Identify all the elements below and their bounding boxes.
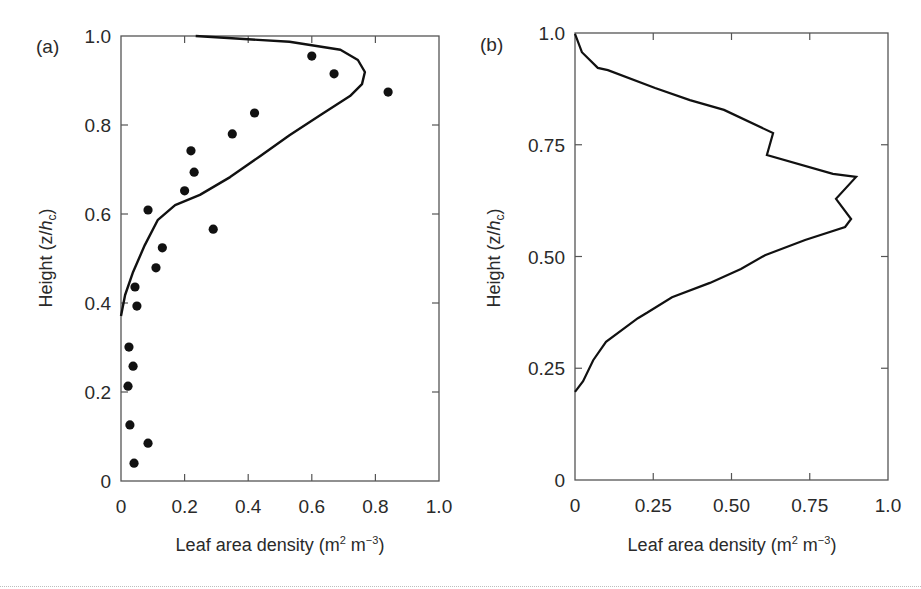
y-tick-label: 0.25 (528, 358, 565, 379)
panel-b-label: (b) (480, 34, 503, 55)
x-title-mid: m (346, 535, 366, 555)
y-tick-label: 0.8 (85, 115, 111, 136)
x-tick-label: 0.75 (791, 495, 828, 516)
panel-a-y-axis-title: Height (z/hc) (36, 208, 59, 307)
x-tick-label: 0.4 (235, 496, 262, 517)
data-point (128, 362, 137, 371)
panel-b-x-tick-labels: 00.250.500.751.0 (570, 495, 902, 516)
x-title-sup2: −3 (818, 534, 831, 546)
y-tick-label: 1.0 (85, 26, 111, 47)
data-point (228, 129, 237, 138)
panel-b-y-axis-title: Height (z/hc) (484, 208, 507, 307)
panel-a-model-line (121, 36, 365, 316)
data-point (151, 263, 160, 272)
y-title-text: Height (z/ (36, 230, 56, 307)
x-title-text: Leaf area density (m (628, 535, 792, 555)
y-tick-label: 0.4 (85, 293, 112, 314)
y-tick-label: 0.50 (528, 247, 565, 268)
x-tick-label: 0 (570, 495, 581, 516)
data-point (250, 108, 259, 117)
x-tick-label: 0.8 (362, 496, 388, 517)
panel-b-y-tick-labels: 00.250.500.751.0 (528, 23, 565, 491)
data-point (329, 69, 338, 78)
data-point (129, 459, 138, 468)
data-point (180, 186, 189, 195)
page-divider (0, 586, 921, 587)
y-title-h: h (484, 220, 504, 230)
y-title-text: Height (z/ (484, 230, 504, 307)
data-point (307, 51, 316, 60)
y-tick-label: 0 (554, 470, 565, 491)
y-title-close: ) (36, 208, 56, 214)
x-title-text: Leaf area density (m (176, 535, 340, 555)
y-title-close: ) (484, 208, 504, 214)
panel-a-chart: (a) 00.20.40.60.81.0 00.20.40.60.81.0 He… (36, 26, 452, 555)
y-tick-label: 0.6 (85, 204, 111, 225)
figure: (a) 00.20.40.60.81.0 00.20.40.60.81.0 He… (0, 0, 921, 589)
x-tick-label: 0 (116, 496, 127, 517)
panel-a-plot-frame (121, 36, 439, 481)
x-tick-label: 0.6 (299, 496, 325, 517)
panel-b-plot-frame (575, 33, 888, 480)
data-point (132, 302, 141, 311)
y-tick-label: 0 (100, 471, 111, 492)
data-point (124, 342, 133, 351)
y-tick-label: 0.75 (528, 135, 565, 156)
panel-b-x-axis-title: Leaf area density (m2 m−3) (628, 534, 837, 555)
panel-a-x-tick-labels: 00.20.40.60.81.0 (116, 496, 453, 517)
data-point (125, 420, 134, 429)
x-title-close: ) (378, 535, 384, 555)
panel-b-chart: (b) 00.250.500.751.0 00.250.500.751.0 He… (480, 23, 901, 555)
y-tick-label: 1.0 (539, 23, 565, 44)
data-point (384, 87, 393, 96)
data-point (158, 243, 167, 252)
x-tick-label: 0.50 (713, 495, 750, 516)
x-tick-label: 0.2 (171, 496, 197, 517)
x-tick-label: 1.0 (426, 496, 452, 517)
data-point (123, 382, 132, 391)
data-point (143, 439, 152, 448)
x-title-close: ) (830, 535, 836, 555)
y-title-h: h (36, 220, 56, 230)
panel-b-ticks (575, 33, 888, 480)
panel-a-measured-points (123, 51, 392, 467)
data-point (209, 225, 218, 234)
x-tick-label: 0.25 (635, 495, 672, 516)
x-title-mid: m (798, 535, 818, 555)
panel-b-profile-line (575, 34, 856, 392)
panel-a-label: (a) (36, 36, 59, 57)
panel-a-ticks (121, 36, 439, 481)
data-point (186, 146, 195, 155)
y-tick-label: 0.2 (85, 382, 111, 403)
x-title-sup2: −3 (366, 534, 379, 546)
panel-a-x-axis-title: Leaf area density (m2 m−3) (176, 534, 385, 555)
data-point (130, 282, 139, 291)
data-point (143, 205, 152, 214)
panel-a-y-tick-labels: 00.20.40.60.81.0 (85, 26, 112, 492)
data-point (190, 168, 199, 177)
x-tick-label: 1.0 (875, 495, 901, 516)
